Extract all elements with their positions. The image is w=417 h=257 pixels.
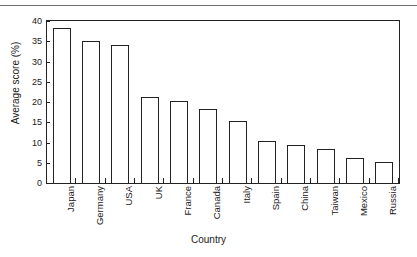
x-axis-title: Country xyxy=(0,234,417,245)
bar xyxy=(317,149,335,183)
bar xyxy=(53,28,71,183)
bar xyxy=(258,141,276,183)
bar xyxy=(82,41,100,183)
x-axis-category-labels: JapanGermanyUSAUKFranceCanadaItalySpainC… xyxy=(47,186,399,232)
bar xyxy=(170,101,188,183)
bar-chart-figure: 0510152025303540 Average score (%) Japan… xyxy=(0,0,417,257)
y-axis-tick-label: 5 xyxy=(18,159,42,168)
y-axis-tick-label: 35 xyxy=(18,37,42,46)
y-axis-tick-label: 15 xyxy=(18,118,42,127)
bar xyxy=(199,109,217,183)
y-axis-tick-labels: 0510152025303540 xyxy=(18,20,42,184)
chart-page: 0510152025303540 Average score (%) Japan… xyxy=(0,0,417,257)
y-axis-tick-label: 25 xyxy=(18,78,42,87)
bar xyxy=(141,97,159,183)
y-axis-tick-label: 40 xyxy=(18,17,42,26)
bar xyxy=(346,158,364,183)
bar-series xyxy=(47,21,399,183)
bar xyxy=(111,45,129,184)
y-axis-tick-label: 30 xyxy=(18,58,42,67)
y-axis-tick-label: 10 xyxy=(18,139,42,148)
y-axis-title: Average score (%) xyxy=(11,23,21,143)
y-axis-tick-label: 0 xyxy=(18,179,42,188)
y-axis-tick-label: 20 xyxy=(18,98,42,107)
bar xyxy=(229,121,247,183)
bar xyxy=(375,162,393,183)
bar xyxy=(287,145,305,183)
